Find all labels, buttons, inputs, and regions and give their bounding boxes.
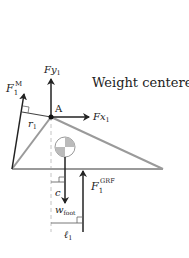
moment-arm-label: r1 (28, 118, 37, 131)
foot-free-body-diagram: Weight centered F1M r1 A Fy1 Fx1 F1GRF c… (0, 0, 189, 258)
moment-arm-line (22, 112, 51, 117)
muscle-force-label: F1M (5, 80, 22, 97)
muscle-force-arrow (12, 94, 24, 169)
c-label: c (55, 187, 61, 198)
joint-point (49, 115, 54, 120)
fx-label: Fx1 (92, 111, 110, 124)
right-angle-marker-c (59, 177, 65, 182)
fy-label: Fy1 (43, 64, 61, 77)
diagram-title: Weight centered (92, 75, 189, 90)
grf-label: F1GRF (90, 177, 115, 195)
lever-label: ℓ1 (64, 229, 72, 242)
center-of-mass-icon (55, 137, 75, 157)
weight-label: wfoot (55, 204, 76, 216)
joint-label: A (54, 103, 63, 114)
right-angle-marker-lever (77, 217, 83, 223)
